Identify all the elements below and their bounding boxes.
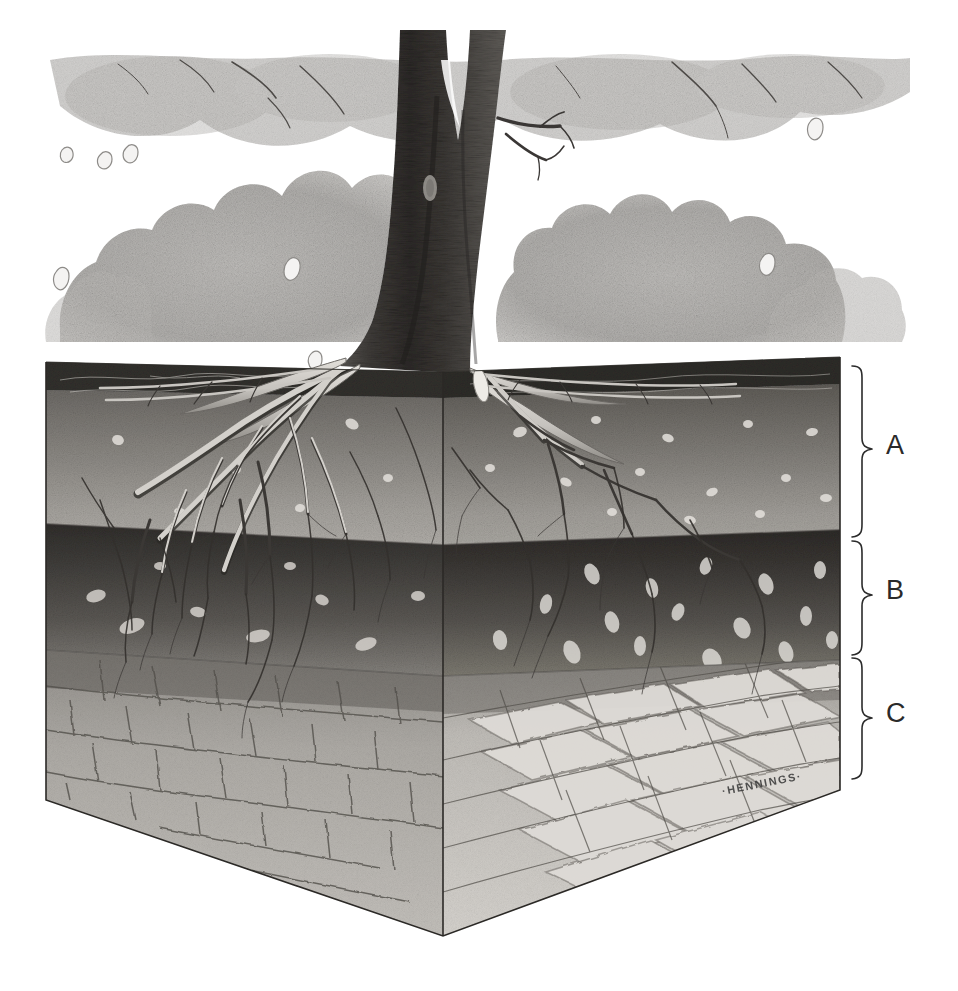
bracket-c [852,658,872,779]
bracket-b [852,541,872,655]
block-front-face [40,355,450,950]
bracket-a [852,366,872,537]
horizon-c-front [40,640,450,950]
illustration-canvas: A B C ·HENNINGS· [0,0,958,991]
block-side-face [438,350,848,945]
horizon-brackets [852,366,872,779]
canopy-group [45,30,910,398]
soil-profile-illustration [0,0,958,991]
horizon-label-c: C [886,700,906,727]
horizon-label-b: B [886,577,905,604]
horizon-label-a: A [886,432,905,459]
